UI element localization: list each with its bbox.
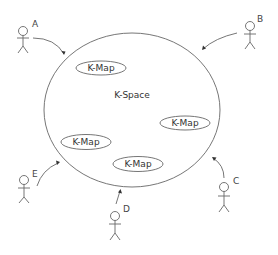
stick-figure-icon: [109, 212, 121, 241]
stick-figure-icon: [17, 27, 29, 54]
arrow-c: [213, 158, 224, 178]
k-map-3: K-Map: [61, 135, 111, 150]
k-map-1: K-Map: [76, 61, 126, 75]
actor-d-label: D: [123, 204, 130, 214]
actor-d: D: [109, 189, 130, 240]
stick-figure-icon: [244, 22, 256, 50]
k-map-4: K-Map: [113, 157, 163, 172]
arrowhead-icon: [62, 51, 66, 55]
k-map-label: K-Map: [87, 63, 114, 73]
diagram-canvas: K-Space K-Map K-Map K-Map K-Map A: [0, 0, 278, 255]
arrow-d: [116, 191, 120, 204]
k-map-label: K-Map: [171, 118, 198, 128]
k-space-label: K-Space: [114, 90, 150, 100]
k-map-label: K-Map: [124, 159, 151, 169]
actor-e-label: E: [32, 169, 38, 179]
arrowhead-icon: [118, 189, 122, 194]
stick-figure-icon: [218, 183, 230, 213]
actor-c: C: [212, 157, 239, 212]
actor-b: B: [202, 14, 263, 50]
k-map-label: K-Map: [72, 137, 99, 147]
actor-a-label: A: [32, 19, 39, 29]
actor-c-label: C: [233, 176, 239, 186]
actor-e: E: [18, 161, 60, 204]
stick-figure-icon: [18, 176, 30, 204]
actor-a: A: [17, 19, 66, 55]
arrow-a: [33, 38, 64, 54]
arrow-e: [37, 163, 58, 186]
k-map-2: K-Map: [160, 116, 210, 130]
arrow-b: [203, 33, 237, 49]
arrowhead-icon: [202, 46, 206, 51]
actor-b-label: B: [257, 14, 263, 24]
arrowhead-icon: [56, 161, 60, 166]
